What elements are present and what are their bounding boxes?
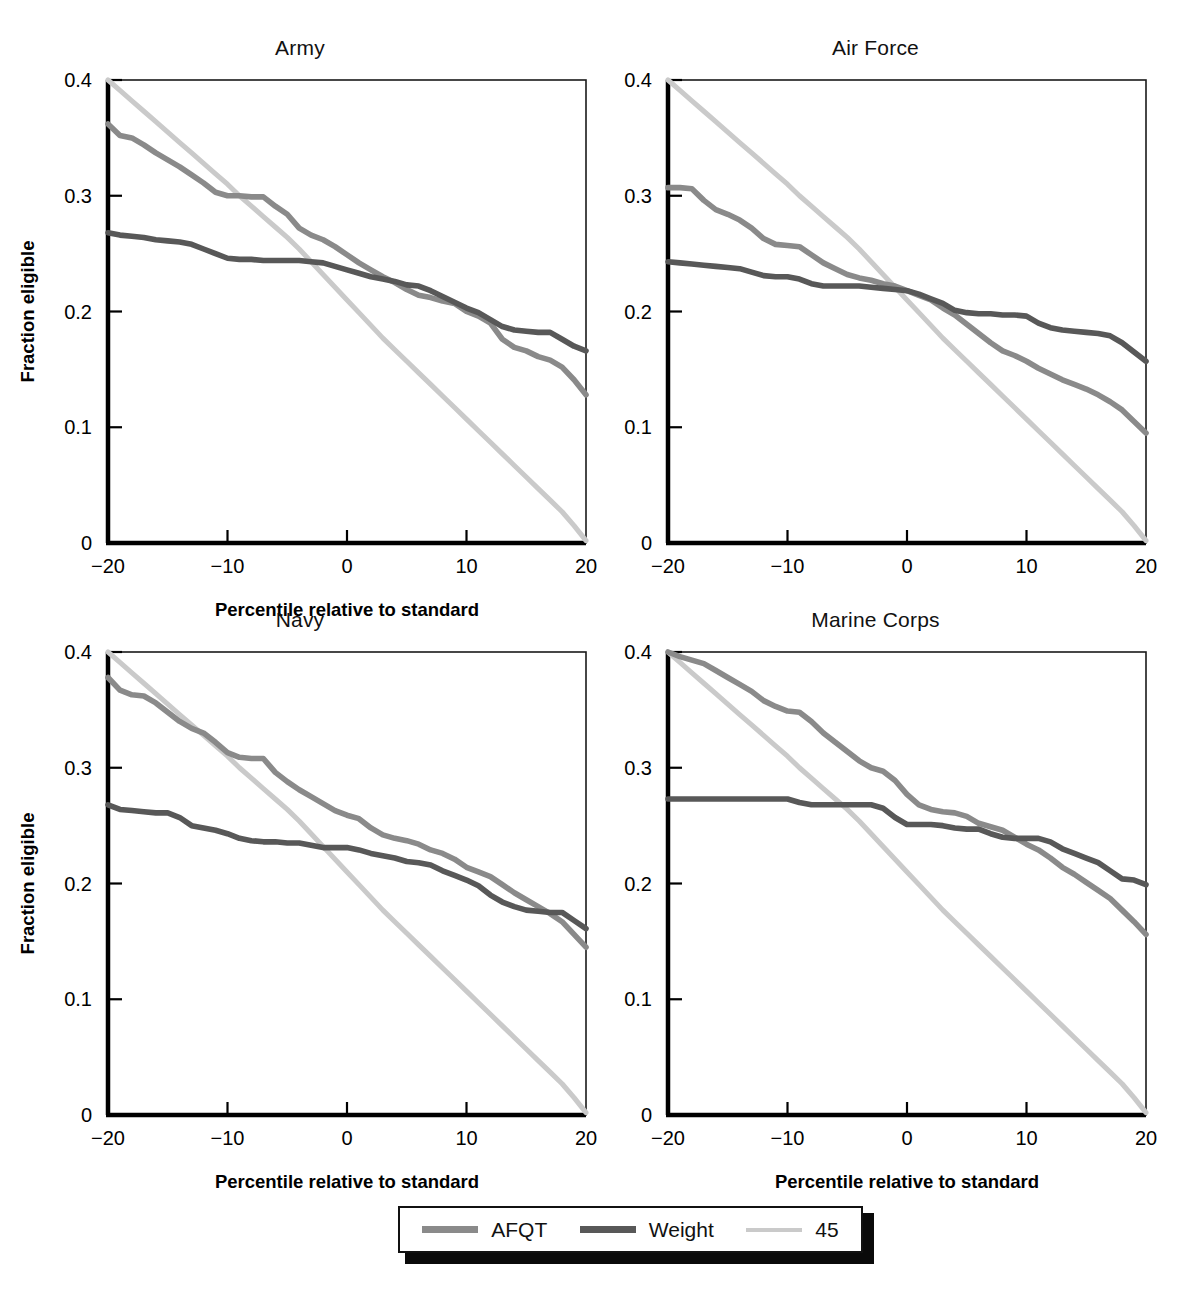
- legend-label: 45: [815, 1218, 838, 1242]
- series-line-afqt: [108, 124, 586, 395]
- plot-area-army: 00.10.20.30.4−20−1001020Percentile relat…: [0, 0, 600, 600]
- x-tick-label: −10: [211, 1127, 245, 1149]
- legend-swatch-icon: [580, 1226, 636, 1233]
- legend-entry-afqt[interactable]: AFQT: [422, 1218, 547, 1242]
- legend-box: AFQTWeight45: [398, 1206, 863, 1253]
- series-line-weight: [108, 233, 586, 351]
- y-tick-label: 0: [81, 1104, 92, 1126]
- x-tick-label: −10: [771, 1127, 805, 1149]
- legend-label: Weight: [649, 1218, 714, 1242]
- y-tick-label: 0.3: [624, 185, 652, 207]
- y-tick-label: 0.1: [624, 416, 652, 438]
- legend: AFQTWeight45: [398, 1206, 874, 1264]
- series-line-afqt: [668, 188, 1146, 433]
- x-tick-label: 10: [1015, 1127, 1037, 1149]
- y-tick-label: 0.2: [64, 873, 92, 895]
- series-line-45: [108, 80, 586, 541]
- series-line-45: [668, 652, 1146, 1113]
- y-tick-label: 0.4: [64, 641, 92, 663]
- y-tick-label: 0.4: [624, 69, 652, 91]
- figure-multipanel-chart: Army 00.10.20.30.4−20−1001020Percentile …: [0, 0, 1191, 1312]
- y-tick-label: 0.2: [64, 301, 92, 323]
- y-tick-label: 0.3: [64, 185, 92, 207]
- x-tick-label: 10: [455, 1127, 477, 1149]
- y-tick-label: 0: [641, 532, 652, 554]
- panel-navy: Navy 00.10.20.30.4−20−1001020Percentile …: [0, 572, 600, 1192]
- series-line-afqt: [668, 652, 1146, 934]
- legend-entry-weight[interactable]: Weight: [580, 1218, 714, 1242]
- y-tick-label: 0.1: [64, 988, 92, 1010]
- y-tick-label: 0.3: [64, 757, 92, 779]
- x-tick-label: −20: [651, 1127, 685, 1149]
- y-tick-label: 0.2: [624, 301, 652, 323]
- panel-air-force: Air Force 00.10.20.30.4−20−1001020: [560, 0, 1191, 600]
- plot-frame: [108, 80, 586, 543]
- y-axis-title: Fraction eligible: [17, 241, 38, 383]
- y-tick-label: 0.1: [624, 988, 652, 1010]
- y-tick-label: 0.3: [624, 757, 652, 779]
- plot-area-marine-corps: 00.10.20.30.4−20−1001020Percentile relat…: [560, 572, 1191, 1192]
- legend-swatch-icon: [746, 1228, 802, 1232]
- series-line-45: [668, 80, 1146, 541]
- y-tick-label: 0.2: [624, 873, 652, 895]
- plot-frame: [668, 652, 1146, 1115]
- panel-marine-corps: Marine Corps 00.10.20.30.4−20−1001020Per…: [560, 572, 1191, 1192]
- legend-entry-45[interactable]: 45: [746, 1218, 838, 1242]
- plot-area-air-force: 00.10.20.30.4−20−1001020: [560, 0, 1191, 600]
- series-line-weight: [668, 262, 1146, 362]
- y-tick-label: 0.1: [64, 416, 92, 438]
- x-axis-title: Percentile relative to standard: [775, 1171, 1039, 1192]
- y-tick-label: 0.4: [64, 69, 92, 91]
- legend-swatch-icon: [422, 1226, 478, 1233]
- plot-frame: [668, 80, 1146, 543]
- x-tick-label: 0: [341, 1127, 352, 1149]
- plot-area-navy: 00.10.20.30.4−20−1001020Percentile relat…: [0, 572, 600, 1192]
- y-tick-label: 0: [641, 1104, 652, 1126]
- y-axis-title: Fraction eligible: [17, 813, 38, 955]
- x-tick-label: 20: [1135, 1127, 1157, 1149]
- y-tick-label: 0: [81, 532, 92, 554]
- series-line-weight: [108, 805, 586, 929]
- y-tick-label: 0.4: [624, 641, 652, 663]
- x-tick-label: −20: [91, 1127, 125, 1149]
- x-axis-title: Percentile relative to standard: [215, 1171, 479, 1192]
- x-tick-label: 0: [901, 1127, 912, 1149]
- legend-label: AFQT: [491, 1218, 547, 1242]
- panel-army: Army 00.10.20.30.4−20−1001020Percentile …: [0, 0, 600, 600]
